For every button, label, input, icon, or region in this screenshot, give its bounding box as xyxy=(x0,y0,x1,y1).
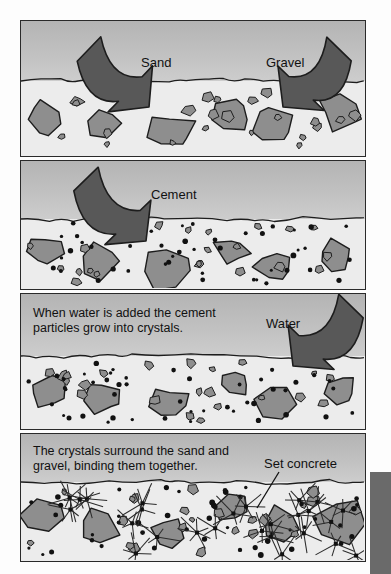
water-label: Water xyxy=(266,316,300,331)
panel-3: When water is added the cement particles… xyxy=(20,293,366,430)
panel-1: SandGravel xyxy=(20,20,366,157)
cement-label: Cement xyxy=(151,187,197,202)
panel-4: The crystals surround the sand and grave… xyxy=(20,433,366,562)
side-block xyxy=(370,472,391,574)
panel-4-caption: The crystals surround the sand and grave… xyxy=(33,444,229,474)
panel-3-caption: When water is added the cement particles… xyxy=(33,306,216,336)
panel-2-illustration xyxy=(21,161,364,288)
panel-1-illustration xyxy=(21,21,364,155)
panel-2: Cement xyxy=(20,160,366,290)
gravel-label: Gravel xyxy=(266,55,304,70)
sand-label: Sand xyxy=(141,55,171,70)
concrete-diagram-figure: SandGravelCementWhen water is added the … xyxy=(0,0,391,574)
set-concrete-label: Set concrete xyxy=(264,456,337,471)
